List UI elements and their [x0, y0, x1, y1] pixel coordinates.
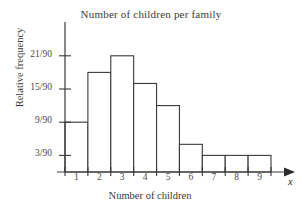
x-axis-tick-label: 8	[229, 172, 245, 182]
y-axis-tick-label: 3/90	[18, 148, 52, 158]
x-axis-arrowhead	[284, 168, 295, 177]
bar-series	[65, 56, 271, 172]
bar	[111, 56, 134, 172]
x-axis-tick-label: 2	[91, 172, 107, 182]
y-axis-tick-label: 15/90	[18, 82, 52, 92]
x-axis-tick-label: 3	[114, 172, 130, 182]
bar	[157, 106, 180, 172]
bar	[202, 155, 225, 172]
x-axis-tick-label: 4	[137, 172, 153, 182]
x-axis-tick-label: 6	[183, 172, 199, 182]
chart-figure: Number of children per family Relative f…	[0, 0, 302, 208]
bar	[225, 155, 248, 172]
x-axis-tick-label: 5	[160, 172, 176, 182]
bar	[134, 83, 157, 172]
y-axis-tick-label: 21/90	[18, 49, 52, 59]
x-axis-tick-label: 7	[206, 172, 222, 182]
y-axis-tick-label: 9/90	[18, 115, 52, 125]
x-axis-tick-label: 9	[252, 172, 268, 182]
x-axis-tick-label: 1	[68, 172, 84, 182]
bar	[248, 155, 271, 172]
bar	[179, 144, 202, 172]
bar	[65, 122, 88, 172]
bar	[88, 72, 111, 172]
